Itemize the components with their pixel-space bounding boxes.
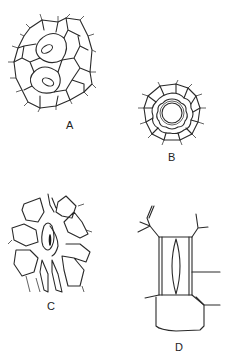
panel-b-drawing — [138, 80, 206, 145]
panel-c-drawing — [8, 194, 92, 292]
panel-label-a: A — [66, 120, 73, 131]
panel-a-drawing — [8, 14, 96, 112]
panel-label-c: C — [47, 301, 55, 312]
diagram-canvas — [0, 0, 226, 358]
panel-label-b: B — [168, 152, 175, 163]
panel-d-drawing — [138, 206, 220, 331]
panel-label-d: D — [175, 342, 183, 353]
